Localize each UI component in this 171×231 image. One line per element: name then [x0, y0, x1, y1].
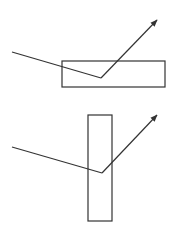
panel-vertical-block	[12, 115, 157, 221]
vertical-block-rect	[88, 115, 112, 221]
panel-horizontal-block	[12, 20, 165, 87]
reflected-ray-arrow-1	[101, 20, 157, 78]
ray-diagram	[0, 0, 171, 231]
reflected-ray-arrow-2	[102, 115, 157, 173]
incident-ray-1	[12, 52, 101, 78]
